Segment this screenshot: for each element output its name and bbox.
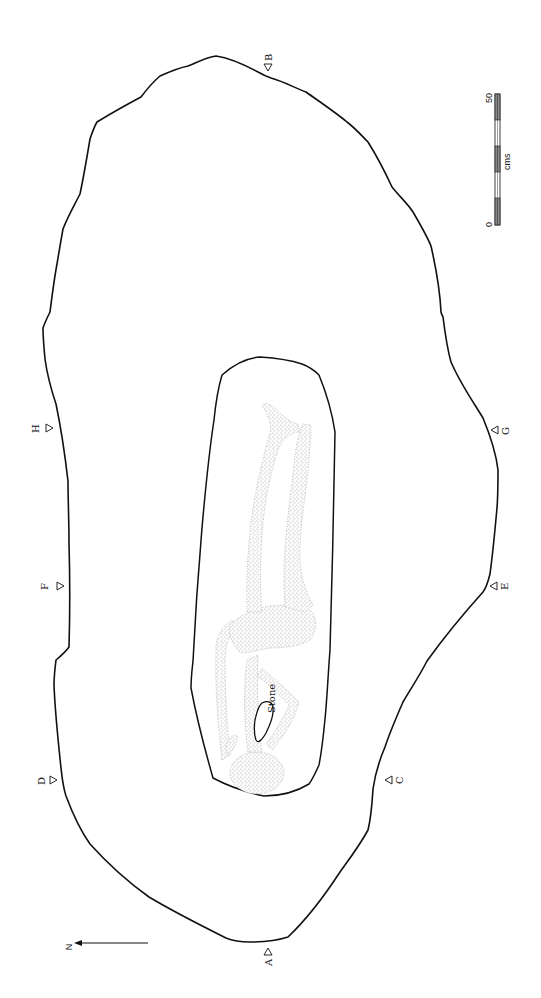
svg-text:G: G [500, 427, 511, 435]
triangle-marker-icon [46, 424, 53, 432]
marker-D: D [36, 776, 57, 785]
marker-A: A [263, 948, 274, 967]
north-arrow: N [64, 940, 148, 950]
marker-C: C [385, 776, 405, 784]
grave-plan-drawing: Stone A B C D E F G H N [0, 0, 541, 998]
svg-text:F: F [39, 583, 50, 590]
triangle-marker-icon [491, 426, 498, 434]
skull [230, 752, 284, 794]
svg-text:H: H [30, 424, 41, 433]
skeleton [216, 404, 316, 794]
marker-F: F [39, 582, 64, 590]
marker-G: G [491, 426, 511, 435]
marker-E: E [490, 582, 510, 590]
scale-unit-label: cms [502, 153, 512, 170]
triangle-marker-icon [264, 64, 272, 71]
triangle-marker-icon [57, 582, 64, 590]
svg-text:B: B [263, 54, 274, 61]
triangle-marker-icon [50, 776, 57, 784]
arrow-head-icon [74, 940, 82, 946]
scale-min-label: 0 [484, 222, 494, 227]
scale-bar: 50 0 cms [484, 93, 512, 227]
marker-H: H [30, 424, 53, 433]
pelvis [229, 605, 315, 653]
svg-text:C: C [394, 776, 405, 784]
svg-text:A: A [263, 958, 274, 967]
svg-text:D: D [36, 777, 47, 785]
triangle-marker-icon [264, 948, 272, 955]
north-label: N [64, 944, 74, 951]
scale-max-label: 50 [484, 93, 494, 103]
triangle-marker-icon [490, 582, 497, 590]
svg-text:E: E [499, 583, 510, 590]
triangle-marker-icon [385, 776, 392, 784]
right-leg [284, 424, 313, 612]
marker-B: B [263, 54, 274, 71]
stone-label: Stone [266, 684, 277, 713]
outer-pit-outline [43, 56, 498, 942]
